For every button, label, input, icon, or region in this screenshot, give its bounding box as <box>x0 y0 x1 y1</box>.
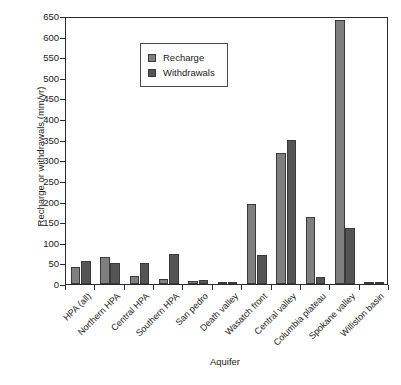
chart-legend: Recharge Withdrawals <box>140 43 228 87</box>
y-tick-label-600: 600 <box>21 33 59 43</box>
bar-recharge-6 <box>247 204 257 284</box>
y-tick-label-350: 350 <box>21 136 59 146</box>
bar-withdrawals-3 <box>169 254 179 284</box>
x-tick-mark-8 <box>300 285 301 290</box>
bar-withdrawals-5 <box>228 282 238 284</box>
x-tick-mark-2 <box>124 285 125 290</box>
y-tick-label-0: 0 <box>21 280 59 290</box>
legend-item-withdrawals: Withdrawals <box>148 65 215 80</box>
legend-swatch-withdrawals <box>148 69 156 77</box>
bar-recharge-5 <box>218 282 228 284</box>
bar-chart-figure: Recharge or withdrawals (mm/yr) Aquifer … <box>0 0 401 385</box>
y-tick-label-150: 150 <box>21 218 59 228</box>
x-tick-mark-7 <box>271 285 272 290</box>
y-tick-label-200: 200 <box>21 198 59 208</box>
bar-withdrawals-10 <box>375 282 385 284</box>
x-tick-mark-4 <box>182 285 183 290</box>
x-tick-mark-10 <box>359 285 360 290</box>
y-tick-label-450: 450 <box>21 94 59 104</box>
y-tick-label-400: 400 <box>21 115 59 125</box>
bar-withdrawals-1 <box>110 263 120 284</box>
bar-recharge-8 <box>306 217 316 284</box>
x-tick-mark-9 <box>329 285 330 290</box>
bar-withdrawals-4 <box>199 280 209 284</box>
y-tick-label-100: 100 <box>21 239 59 249</box>
legend-label-withdrawals: Withdrawals <box>163 68 215 78</box>
bar-recharge-9 <box>335 20 345 284</box>
y-tick-label-650: 650 <box>21 12 59 22</box>
bar-withdrawals-0 <box>81 261 91 284</box>
x-tick-mark-3 <box>153 285 154 290</box>
y-tick-label-250: 250 <box>21 177 59 187</box>
y-tick-label-550: 550 <box>21 53 59 63</box>
y-tick-label-300: 300 <box>21 156 59 166</box>
bar-recharge-3 <box>159 279 169 284</box>
y-tick-label-500: 500 <box>21 74 59 84</box>
bar-recharge-2 <box>130 276 140 284</box>
bar-recharge-1 <box>100 257 110 284</box>
bar-withdrawals-7 <box>287 140 297 284</box>
x-tick-mark-0 <box>65 285 66 290</box>
x-tick-mark-5 <box>212 285 213 290</box>
legend-swatch-recharge <box>148 54 156 62</box>
legend-item-recharge: Recharge <box>148 50 215 65</box>
bar-withdrawals-6 <box>257 255 267 284</box>
bar-recharge-10 <box>364 282 374 284</box>
bar-recharge-4 <box>188 281 198 284</box>
y-tick-label-50: 50 <box>21 259 59 269</box>
x-tick-mark-1 <box>94 285 95 290</box>
bar-withdrawals-2 <box>140 263 150 284</box>
legend-label-recharge: Recharge <box>163 53 204 63</box>
plot-area: Recharge Withdrawals <box>65 17 388 285</box>
x-tick-mark-6 <box>241 285 242 290</box>
bar-recharge-0 <box>71 267 81 284</box>
bar-withdrawals-8 <box>316 277 326 284</box>
bar-withdrawals-9 <box>345 228 355 284</box>
x-tick-mark-11 <box>388 285 389 290</box>
bar-recharge-7 <box>276 153 286 284</box>
